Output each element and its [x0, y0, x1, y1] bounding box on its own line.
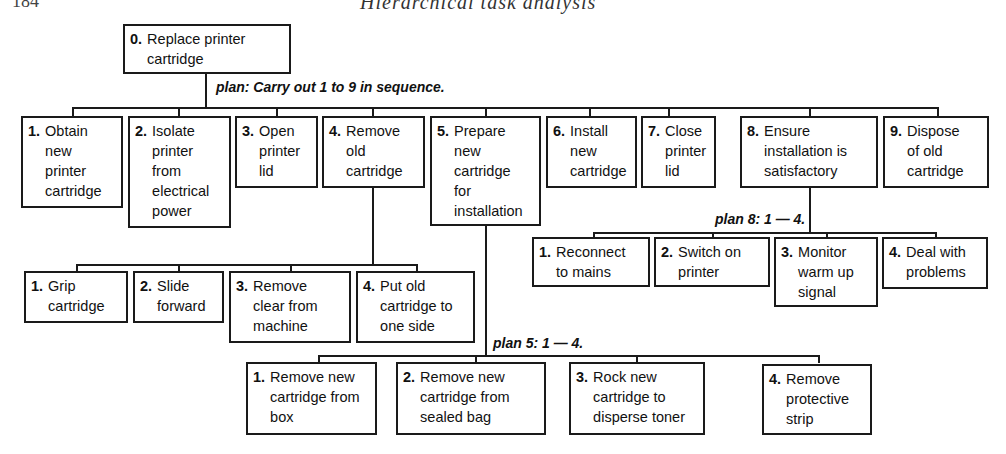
- task-number: 1.: [28, 121, 40, 203]
- task-4-box: 4. Remove old cartridge: [322, 116, 425, 188]
- subtask-8-4-box: 4. Deal with problems: [882, 237, 988, 289]
- connector: [818, 355, 820, 363]
- connector: [372, 188, 374, 266]
- running-header: Hierarchical task analysis: [360, 0, 596, 14]
- task-number: 2.: [135, 121, 147, 223]
- subtask-8-2-box: 2. Switch on printer: [654, 237, 770, 287]
- task-number: 4.: [889, 242, 901, 284]
- page-number: 184: [12, 0, 39, 12]
- plan-0-label: plan: Carry out 1 to 9 in sequence.: [216, 79, 445, 95]
- task-label: Deal with problems: [906, 242, 966, 284]
- task-number: 3.: [576, 367, 588, 430]
- task-label: Reconnect to mains: [556, 242, 625, 282]
- task-label: Remove old cartridge: [346, 121, 402, 183]
- task-number: 6.: [553, 121, 565, 183]
- task-number: 7.: [648, 121, 660, 183]
- plan-8-label: plan 8: 1 — 4.: [715, 211, 805, 227]
- task-label: Put old cartridge to one side: [380, 276, 453, 338]
- task-label: Remove new cartridge from box: [270, 367, 359, 430]
- task-3-box: 3. Open printer lid: [235, 116, 318, 188]
- task-number: 9.: [890, 121, 902, 183]
- subtask-8-3-box: 3. Monitor warm up signal: [774, 237, 878, 307]
- connector: [318, 355, 818, 357]
- task-number: 8.: [747, 121, 759, 183]
- connector: [809, 188, 811, 234]
- subtask-4-2-box: 2. Slide forward: [133, 271, 224, 323]
- subtask-4-3-box: 3. Remove clear from machine: [229, 271, 351, 343]
- subtask-5-3-box: 3. Rock new cartridge to disperse toner: [569, 362, 705, 435]
- task-label: Ensure installation is satisfactory: [764, 121, 847, 183]
- task-2-box: 2. Isolate printer from electrical power: [128, 116, 231, 228]
- subtask-5-2-box: 2. Remove new cartridge from sealed bag: [396, 362, 546, 435]
- task-label: Replace printer cartridge: [147, 29, 245, 69]
- task-label: Close printer lid: [665, 121, 706, 183]
- subtask-4-1-box: 1. Grip cartridge: [24, 271, 128, 323]
- task-number: 4.: [329, 121, 341, 183]
- task-label: Dispose of old cartridge: [907, 121, 963, 183]
- connector: [593, 232, 936, 234]
- task-number: 0.: [130, 29, 142, 69]
- connector: [205, 74, 207, 109]
- task-label: Remove new cartridge from sealed bag: [420, 367, 509, 430]
- task-number: 2.: [403, 367, 415, 430]
- task-label: Remove clear from machine: [253, 276, 317, 338]
- task-number: 3.: [781, 242, 793, 302]
- subtask-5-1-box: 1. Remove new cartridge from box: [246, 362, 377, 435]
- task-7-box: 7. Close printer lid: [641, 116, 716, 188]
- task-label: Slide forward: [157, 276, 205, 318]
- task-number: 1.: [253, 367, 265, 430]
- task-number: 2.: [661, 242, 673, 282]
- subtask-4-4-box: 4. Put old cartridge to one side: [356, 271, 475, 343]
- task-label: Rock new cartridge to disperse toner: [593, 367, 685, 430]
- task-number: 1.: [31, 276, 43, 318]
- task-label: Remove protective strip: [786, 369, 849, 430]
- connector: [76, 264, 416, 266]
- task-label: Isolate printer from electrical power: [152, 121, 209, 223]
- task-number: 4.: [363, 276, 375, 338]
- task-label: Monitor warm up signal: [798, 242, 854, 302]
- plan-5-label: plan 5: 1 — 4.: [493, 335, 583, 351]
- task-1-box: 1. Obtain new printer cartridge: [21, 116, 123, 208]
- task-label: Open printer lid: [259, 121, 300, 183]
- task-label: Grip cartridge: [48, 276, 104, 318]
- task-label: Switch on printer: [678, 242, 741, 282]
- task-number: 4.: [769, 369, 781, 430]
- connector: [485, 226, 487, 356]
- task-number: 2.: [140, 276, 152, 318]
- subtask-5-4-box: 4. Remove protective strip: [762, 364, 872, 435]
- task-0-box: 0. Replace printer cartridge: [123, 24, 291, 74]
- task-9-box: 9. Dispose of old cartridge: [883, 116, 989, 188]
- task-5-box: 5. Prepare new cartridge for installatio…: [430, 116, 541, 226]
- task-number: 5.: [437, 121, 449, 221]
- task-8-box: 8. Ensure installation is satisfactory: [740, 116, 878, 188]
- task-number: 3.: [242, 121, 254, 183]
- task-number: 3.: [236, 276, 248, 338]
- task-label: Install new cartridge: [570, 121, 626, 183]
- task-label: Obtain new printer cartridge: [45, 121, 101, 203]
- task-number: 1.: [539, 242, 551, 282]
- task-6-box: 6. Install new cartridge: [546, 116, 637, 188]
- task-label: Prepare new cartridge for installation: [454, 121, 523, 221]
- subtask-8-1-box: 1. Reconnect to mains: [532, 237, 650, 287]
